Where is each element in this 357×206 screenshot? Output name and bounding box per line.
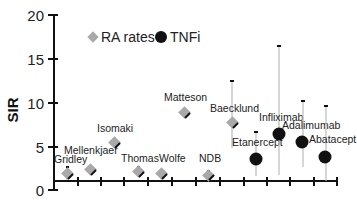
point-abatacept bbox=[319, 151, 332, 164]
y-tick-0: 0 bbox=[36, 182, 44, 199]
legend-tnfi-label: TNFi bbox=[170, 29, 200, 45]
label-mellenkjaer: Mellenkjaer bbox=[64, 144, 118, 156]
legend-diamond-icon bbox=[87, 31, 98, 42]
point-gridley bbox=[61, 167, 74, 180]
point-wolfe bbox=[155, 167, 168, 180]
point-etanercept bbox=[250, 153, 263, 166]
label-baecklund: Baecklund bbox=[210, 102, 259, 114]
legend-ra-label: RA rates bbox=[101, 29, 155, 45]
point-thomas bbox=[132, 165, 145, 178]
label-abatacept: Abatacept bbox=[309, 133, 356, 145]
y-tick-5: 5 bbox=[36, 139, 44, 156]
legend: RA rates TNFi bbox=[87, 29, 200, 45]
y-axis-label: SIR bbox=[4, 97, 21, 122]
x-axis bbox=[54, 177, 338, 186]
y-axis: 20 15 10 5 0 SIR bbox=[4, 7, 58, 199]
legend-circle-icon bbox=[155, 31, 167, 43]
point-baecklund bbox=[226, 116, 239, 129]
label-adalimumab: Adalimumab bbox=[282, 119, 341, 131]
y-tick-10: 10 bbox=[27, 95, 44, 112]
point-ndb bbox=[202, 169, 215, 182]
label-wolfe: Wolfe bbox=[159, 152, 186, 164]
series-ra-rates: Gridley Mellenkjaer Isomaki Thomas Wolfe bbox=[54, 80, 259, 182]
label-matteson: Matteson bbox=[164, 91, 207, 103]
point-mellenkjaer bbox=[84, 163, 97, 176]
point-matteson bbox=[178, 106, 191, 119]
label-isomaki: Isomaki bbox=[97, 122, 133, 134]
y-tick-15: 15 bbox=[27, 51, 44, 68]
label-thomas: Thomas bbox=[121, 152, 159, 164]
point-adalimumab bbox=[296, 136, 309, 149]
label-ndb: NDB bbox=[199, 152, 221, 164]
y-tick-20: 20 bbox=[27, 7, 44, 24]
sir-chart: 20 15 10 5 0 SIR RA rates TNFi bbox=[0, 0, 357, 206]
